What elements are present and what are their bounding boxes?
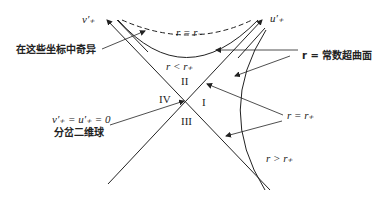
r-minus-label: r = r₋ xyxy=(176,27,203,38)
region-II-label: II xyxy=(181,76,188,87)
bifurcation-equation: v′₊ = u′₊ = 0 xyxy=(52,114,111,125)
bifurcation-arrow xyxy=(110,101,184,125)
const-surface-annotation: r = 常数超曲面 xyxy=(302,50,372,61)
r-greater-curve xyxy=(240,30,266,190)
region-I-label: I xyxy=(202,97,206,108)
horizon-line-right xyxy=(238,28,265,58)
region-III-label: III xyxy=(181,116,192,127)
const-arrow-2 xyxy=(235,56,290,76)
u-axis-label: u′₊ xyxy=(270,13,284,24)
r-plus-label: r = r₊ xyxy=(287,110,314,121)
singular-arrow xyxy=(102,31,145,49)
v-axis-line xyxy=(107,20,270,190)
r-less-label: r < r₊ xyxy=(166,61,193,72)
bifurcation-annotation: 分岔二维球 xyxy=(54,127,104,138)
region-IV-label: IV xyxy=(159,94,171,105)
r-plus-arrow-2 xyxy=(226,121,282,136)
singular-annotation: 在这些坐标中奇异 xyxy=(16,44,96,55)
v-axis-label: v′₊ xyxy=(82,14,95,25)
r-greater-label: r > r₊ xyxy=(266,153,293,164)
r-plus-arrow-1 xyxy=(207,84,283,115)
